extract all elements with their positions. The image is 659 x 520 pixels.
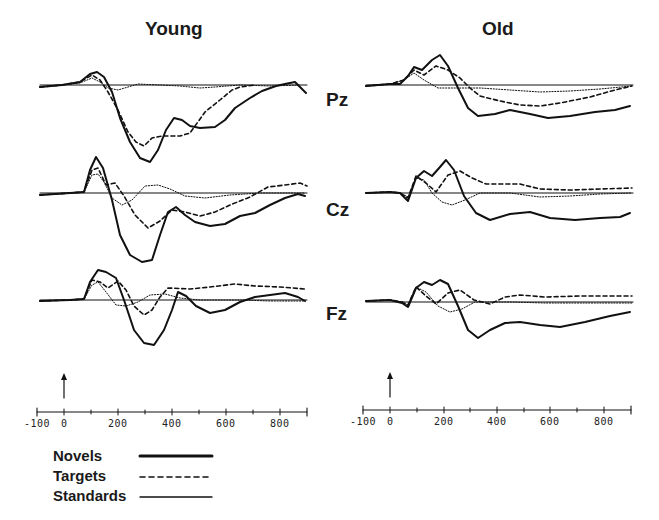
young-tick-800: 800 bbox=[270, 418, 290, 429]
old-tick-600: 600 bbox=[540, 416, 560, 427]
erp-waveform-plot bbox=[0, 0, 659, 520]
young-cz-traces bbox=[40, 157, 307, 262]
old-tick-400: 400 bbox=[487, 416, 507, 427]
old-fz-traces bbox=[366, 280, 633, 338]
young-tick-600: 600 bbox=[216, 418, 236, 429]
old-cz-traces bbox=[366, 160, 633, 220]
young-x-axis bbox=[37, 373, 307, 416]
young-tick--100: -100 bbox=[24, 418, 50, 429]
legend-label-targets: Targets bbox=[53, 467, 106, 484]
arrow-head-icon bbox=[387, 372, 393, 379]
old-tick--100: -100 bbox=[350, 416, 376, 427]
legend-label-standards: Standards bbox=[53, 487, 126, 504]
old-tick-0: 0 bbox=[387, 416, 394, 427]
young-tick-200: 200 bbox=[108, 418, 128, 429]
old-x-axis bbox=[363, 372, 631, 414]
old-tick-800: 800 bbox=[594, 416, 614, 427]
young-fz-traces bbox=[40, 270, 307, 345]
legend-label-novels: Novels bbox=[53, 447, 102, 464]
young-tick-0: 0 bbox=[61, 418, 68, 429]
young-tick-400: 400 bbox=[162, 418, 182, 429]
old-pz-traces bbox=[366, 55, 633, 118]
old-tick-200: 200 bbox=[434, 416, 454, 427]
legend-swatches bbox=[140, 456, 212, 497]
young-pz-traces bbox=[40, 72, 307, 162]
arrow-head-icon bbox=[61, 373, 67, 380]
